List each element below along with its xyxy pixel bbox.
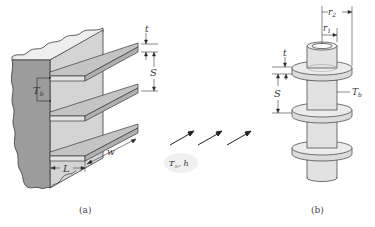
spacing-dimension-b <box>272 57 292 113</box>
fluid-flow: T∞, h <box>164 131 251 173</box>
flow-arrow-icon <box>170 131 251 145</box>
panel-b-annular-fins <box>272 6 352 182</box>
tube-top <box>307 42 337 72</box>
wall-side-face <box>11 60 50 189</box>
spacing-label-a: S <box>150 67 157 78</box>
caption-b: (b) <box>311 205 324 215</box>
fluid-conditions-label: T∞, h <box>169 159 189 169</box>
thickness-label-a: t <box>145 24 149 34</box>
base-temp-label-b: Tb <box>352 87 362 98</box>
thickness-label-b: t <box>283 48 287 58</box>
fin-diagram: Tb t S w <box>0 0 375 227</box>
spacing-label-b: S <box>274 88 281 99</box>
outer-radius-label: r2 <box>328 7 336 18</box>
spacing-dimension-a <box>141 33 158 91</box>
panel-a-plane-wall-fins: Tb t S w <box>11 24 158 215</box>
width-label: w <box>107 147 115 157</box>
caption-a: (a) <box>79 205 91 215</box>
inner-radius-label: r1 <box>323 23 331 34</box>
length-label: L <box>62 163 70 174</box>
